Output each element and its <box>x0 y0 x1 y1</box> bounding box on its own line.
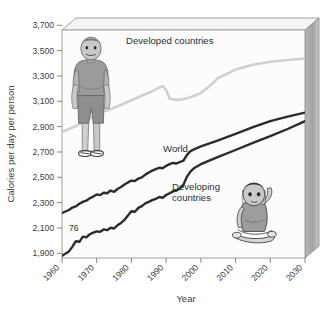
annotation-76: 76 <box>69 223 79 233</box>
x-tick-label-1960: 1960 <box>41 262 62 283</box>
y-tick-label-0: 1,900 <box>32 248 54 258</box>
x-axis: 1960 1970 1980 1990 2000 2010 2020 2030 … <box>41 258 305 304</box>
series-label-developing-countries-line2: countries <box>172 192 211 203</box>
y-tick-label-7: 3,300 <box>32 71 54 81</box>
x-tick-label-2030: 2030 <box>284 262 305 283</box>
series-label-developing-countries-line1: Developing <box>172 181 220 192</box>
y-tick-label-5: 2,900 <box>32 122 54 132</box>
x-tick-label-1970: 1970 <box>76 262 97 283</box>
y-tick-label-1: 2,100 <box>32 223 54 233</box>
chart-right-panel <box>305 18 319 258</box>
y-axis: 1,900 2,100 2,300 2,500 2,700 2,900 3,10… <box>5 20 62 258</box>
x-tick-group <box>62 258 305 263</box>
series-label-developed-countries: Developed countries <box>126 35 214 46</box>
y-tick-label-9: 3,700 <box>32 20 54 30</box>
chart-top-bevel <box>62 18 319 30</box>
calories-per-day-line-chart: 1,900 2,100 2,300 2,500 2,700 2,900 3,10… <box>0 0 333 312</box>
x-tick-label-1990: 1990 <box>145 262 166 283</box>
y-tick-label-3: 2,500 <box>32 172 54 182</box>
y-tick-label-4: 2,700 <box>32 147 54 157</box>
y-tick-label-6: 3,100 <box>32 96 54 106</box>
x-tick-label-1980: 1980 <box>110 262 131 283</box>
x-axis-title: Year <box>176 293 195 304</box>
series-label-world: World <box>163 143 188 154</box>
y-axis-title: Calories per day per person <box>5 85 16 202</box>
x-tick-label-2010: 2010 <box>214 262 235 283</box>
chart-figure: 1,900 2,100 2,300 2,500 2,700 2,900 3,10… <box>0 0 333 312</box>
y-tick-group <box>57 25 62 253</box>
x-tick-label-2020: 2020 <box>249 262 270 283</box>
x-tick-label-2000: 2000 <box>180 262 201 283</box>
y-tick-label-8: 3,500 <box>32 46 54 56</box>
y-tick-label-2: 2,300 <box>32 198 54 208</box>
